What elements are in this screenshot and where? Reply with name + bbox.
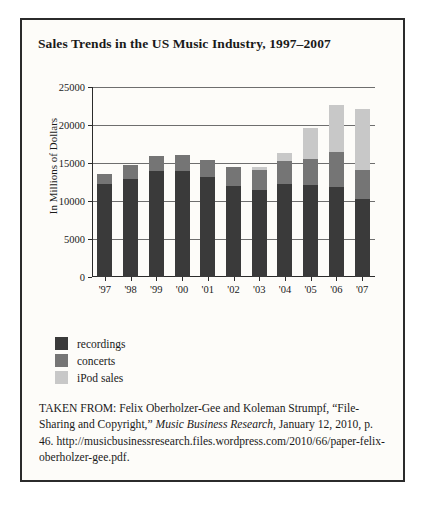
bar-segment-concerts <box>277 161 292 184</box>
bar-segment-recordings <box>252 190 267 277</box>
x-axis-tick-label: '02 <box>227 284 239 295</box>
plot-area: 0500010000150002000025000 '97'98'99'00'0… <box>92 87 375 277</box>
legend-item: concerts <box>55 352 126 369</box>
bar-segment-recordings <box>175 171 190 277</box>
bar-segment-concerts <box>200 160 215 177</box>
bar-segment-recordings <box>329 187 344 277</box>
x-axis-tick-mark <box>311 277 312 281</box>
bar-group <box>252 167 267 277</box>
y-axis-tick-label: 10000 <box>59 196 85 207</box>
bar-group <box>303 128 318 277</box>
bar-group <box>200 160 215 277</box>
x-axis-tick: '00 <box>175 276 190 277</box>
y-axis-tick-label: 0 <box>80 272 85 283</box>
caption-journal: Music Business Research <box>156 418 273 431</box>
x-axis-tick: '99 <box>149 276 164 277</box>
bar-segment-ipod-sales <box>355 109 370 170</box>
x-axis-tick-label: '97 <box>99 284 111 295</box>
chart-title: Sales Trends in the US Music Industry, 1… <box>38 36 331 52</box>
bar-segment-concerts <box>252 170 267 191</box>
bar-group <box>175 155 190 277</box>
legend-label: recordings <box>77 338 126 350</box>
bar-segment-recordings <box>200 177 215 277</box>
bar-segment-concerts <box>149 156 164 171</box>
legend-swatch <box>55 337 68 350</box>
bar-segment-recordings <box>226 186 241 277</box>
bar-segment-ipod-sales <box>303 128 318 159</box>
x-axis-tick-mark <box>182 277 183 281</box>
x-axis-tick: '02 <box>226 276 241 277</box>
legend-swatch <box>55 354 68 367</box>
x-axis-tick: '07 <box>355 276 370 277</box>
x-axis-tick-label: '00 <box>176 284 188 295</box>
x-axis-tick: '05 <box>303 276 318 277</box>
bar-segment-concerts <box>355 170 370 200</box>
x-axis-tick: '97 <box>97 276 112 277</box>
legend-swatch <box>55 371 68 384</box>
x-axis-tick-mark <box>336 277 337 281</box>
bar-group <box>226 167 241 277</box>
chart-plot-block: In Millions of Dollars 05000100001500020… <box>22 68 403 318</box>
bar-segment-concerts <box>175 155 190 171</box>
bar-segment-recordings <box>277 184 292 277</box>
x-axis-tick-label: '06 <box>330 284 342 295</box>
x-axis-tick-label: '07 <box>356 284 368 295</box>
bar-group <box>329 104 344 277</box>
x-axis-tick-label: '04 <box>279 284 291 295</box>
y-axis-tick-label: 20000 <box>59 120 85 131</box>
bar-group <box>149 156 164 277</box>
legend-label: concerts <box>77 355 115 367</box>
bar-segment-recordings <box>355 199 370 277</box>
x-axis-tick-mark <box>208 277 209 281</box>
bar-group <box>97 174 112 277</box>
y-axis-tick-mark <box>88 277 92 278</box>
chart-legend: recordingsconcertsiPod sales <box>55 335 126 386</box>
bar-segment-concerts <box>123 165 138 179</box>
x-axis-tick-mark <box>105 277 106 281</box>
legend-item: recordings <box>55 335 126 352</box>
x-axis-tick: '04 <box>277 276 292 277</box>
x-axis-tick-label: '98 <box>124 284 136 295</box>
legend-item: iPod sales <box>55 369 126 386</box>
bar-group <box>355 109 370 277</box>
x-axis-tick-mark <box>259 277 260 281</box>
x-axis-tick: '01 <box>200 276 215 277</box>
x-axis-tick-mark <box>156 277 157 281</box>
x-axis-tick-mark <box>362 277 363 281</box>
bar-segment-ipod-sales <box>329 105 344 153</box>
figure-card: Sales Trends in the US Music Industry, 1… <box>20 18 405 482</box>
x-axis-tick: '06 <box>329 276 344 277</box>
x-axis-tick-mark <box>285 277 286 281</box>
bar-segment-recordings <box>303 185 318 277</box>
x-axis-tick-mark <box>131 277 132 281</box>
legend-label: iPod sales <box>77 372 123 384</box>
y-axis-tick-label: 15000 <box>59 158 85 169</box>
bar-segment-concerts <box>97 174 112 185</box>
x-axis-tick: '98 <box>123 276 138 277</box>
bar-segment-ipod-sales <box>252 167 267 170</box>
x-axis-tick: '03 <box>252 276 267 277</box>
x-axis-tick-label: '05 <box>304 284 316 295</box>
bar-segment-concerts <box>303 159 318 185</box>
figure-caption: TAKEN FROM: Felix Oberholzer-Gee and Kol… <box>39 401 388 467</box>
bar-segment-concerts <box>226 167 241 186</box>
bars-layer: '97'98'99'00'01'02'03'04'05'06'07 <box>92 87 375 277</box>
x-axis-tick-label: '01 <box>202 284 214 295</box>
bar-segment-recordings <box>149 171 164 277</box>
bar-segment-concerts <box>329 152 344 187</box>
bar-segment-recordings <box>123 179 138 277</box>
x-axis-tick-label: '99 <box>150 284 162 295</box>
bar-group <box>277 153 292 277</box>
bar-group <box>123 165 138 277</box>
x-axis-tick-mark <box>234 277 235 281</box>
bar-segment-ipod-sales <box>277 153 292 161</box>
y-axis-tick-label: 5000 <box>64 234 85 245</box>
x-axis-tick-label: '03 <box>253 284 265 295</box>
y-axis-title: In Millions of Dollars <box>47 91 59 241</box>
bar-segment-recordings <box>97 184 112 277</box>
y-axis-tick-label: 25000 <box>59 82 85 93</box>
